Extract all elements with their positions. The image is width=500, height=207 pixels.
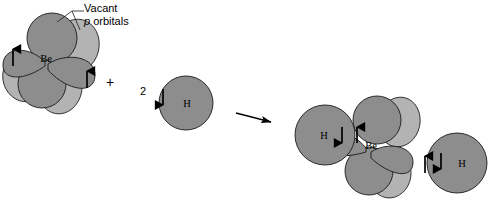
vacant-label-line1: Vacant (84, 2, 117, 14)
plus-sign: + (106, 74, 114, 90)
hydrogen-reactant: H (159, 76, 213, 130)
product-hydrogen-right (427, 133, 487, 193)
product-beryllium-center-label: Be (365, 140, 377, 151)
beryllium-center-label: Be (40, 53, 52, 64)
vacant-label-line2: orbitals (90, 15, 129, 27)
product-hydrogen-right-label: H (458, 158, 466, 169)
vacant-orbitals-label: Vacant p orbitals (84, 2, 129, 28)
reaction-arrow (236, 113, 271, 122)
product-hydrogen-left-label: H (320, 130, 328, 141)
beryllium-reactant: Be (0, 13, 105, 117)
beh2-product: H H Be (295, 93, 487, 201)
product-vacant-p-orbital-top (353, 96, 401, 144)
reaction-diagram: Be H H H (0, 0, 500, 207)
hydrogen-coefficient: 2 (140, 85, 146, 97)
hydrogen-atom-label: H (183, 98, 191, 109)
